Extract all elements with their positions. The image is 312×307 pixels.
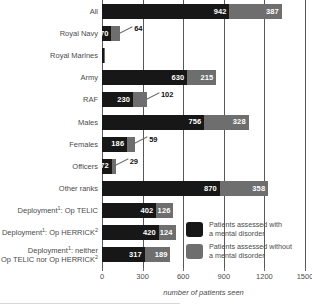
bar-value-with-disorder-females: 186 bbox=[111, 140, 127, 148]
bar-segment-with-disorder-army: 630 bbox=[102, 70, 187, 85]
bar-row-females: 186 bbox=[102, 137, 135, 152]
footer-divider bbox=[0, 303, 180, 304]
bar-segment-without-disorder-deployment-op-telic: 126 bbox=[156, 203, 173, 218]
bar-row-other-ranks: 870358 bbox=[102, 181, 268, 196]
bar-segment-without-disorder-deployment-op-herrick: 124 bbox=[159, 225, 176, 240]
bar-segment-without-disorder-other-ranks: 358 bbox=[220, 181, 268, 196]
bar-value-with-disorder-deployment-op-herrick: 420 bbox=[143, 229, 159, 237]
bar-value-with-disorder-army: 630 bbox=[171, 74, 187, 82]
bar-segment-with-disorder-deployment-op-herrick: 420 bbox=[102, 225, 159, 240]
category-label-officers: Officers bbox=[0, 162, 98, 171]
bar-value-without-disorder-other-ranks: 358 bbox=[252, 185, 268, 193]
bar-segment-without-disorder-royal-marines bbox=[104, 48, 105, 63]
x-tick-1500 bbox=[305, 268, 306, 271]
bar-segment-without-disorder-army: 215 bbox=[187, 70, 216, 85]
x-tick-label-600: 600 bbox=[177, 272, 190, 281]
bar-value-without-disorder-army: 215 bbox=[201, 74, 217, 82]
bar-value-with-disorder-deployment-neither: 317 bbox=[129, 251, 145, 259]
bar-value-without-disorder-officers: 29 bbox=[130, 158, 138, 166]
bar-segment-with-disorder-royal-navy: 70 bbox=[102, 26, 111, 41]
bar-segment-with-disorder-deployment-neither: 317 bbox=[102, 247, 145, 262]
category-label-royal-navy: Royal Navy bbox=[0, 29, 98, 38]
bar-segment-with-disorder-officers: 72 bbox=[102, 159, 112, 174]
bar-segment-with-disorder-females: 186 bbox=[102, 137, 127, 152]
bar-value-with-disorder-other-ranks: 870 bbox=[204, 185, 220, 193]
x-tick-label-900: 900 bbox=[218, 272, 231, 281]
legend-label-with-disorder: Patients assessed witha mental disorder bbox=[209, 220, 282, 238]
x-tick-label-0: 0 bbox=[100, 272, 104, 281]
bar-row-all: 942387 bbox=[102, 4, 282, 19]
x-tick-600 bbox=[183, 268, 184, 271]
bar-value-with-disorder-officers: 72 bbox=[100, 162, 112, 170]
category-axis-labels: AllRoyal NavyRoyal MarinesArmyRAFMalesFe… bbox=[0, 0, 98, 268]
category-label-all: All bbox=[0, 7, 98, 16]
category-label-royal-marines: Royal Marines bbox=[0, 51, 98, 60]
bar-row-deployment-op-telic: 402126 bbox=[102, 203, 173, 218]
bar-value-with-disorder-all: 942 bbox=[214, 8, 230, 16]
bar-row-deployment-neither: 317189 bbox=[102, 247, 170, 262]
bar-value-without-disorder-raf: 102 bbox=[161, 91, 174, 99]
legend-label-without-disorder: Patients assessed withouta mental disord… bbox=[209, 242, 292, 260]
bar-segment-with-disorder-deployment-op-telic: 402 bbox=[102, 203, 156, 218]
category-label-deployment-neither: Deployment1: neitherOp TELIC nor Op HERR… bbox=[0, 246, 98, 264]
x-tick-1200 bbox=[264, 268, 265, 271]
bar-segment-without-disorder-deployment-neither: 189 bbox=[145, 247, 171, 262]
category-label-females: Females bbox=[0, 140, 98, 149]
bar-value-without-disorder-royal-navy: 64 bbox=[134, 25, 142, 33]
bar-value-with-disorder-royal-navy: 70 bbox=[100, 30, 112, 38]
x-tick-0 bbox=[102, 268, 103, 271]
legend-item-with-disorder: Patients assessed witha mental disorder bbox=[186, 220, 308, 238]
bar-segment-without-disorder-all: 387 bbox=[229, 4, 281, 19]
bar-segment-with-disorder-raf: 230 bbox=[102, 92, 133, 107]
bar-row-raf: 230 bbox=[102, 92, 147, 107]
legend-item-without-disorder: Patients assessed withouta mental disord… bbox=[186, 242, 308, 260]
bar-segment-with-disorder-males: 756 bbox=[102, 115, 204, 130]
x-tick-label-1500: 1500 bbox=[297, 272, 312, 281]
bar-value-without-disorder-deployment-neither: 189 bbox=[155, 251, 171, 259]
category-label-males: Males bbox=[0, 118, 98, 127]
bar-row-royal-marines bbox=[102, 48, 104, 63]
bar-row-army: 630215 bbox=[102, 70, 216, 85]
stacked-bar-chart: AllRoyal NavyRoyal MarinesArmyRAFMalesFe… bbox=[0, 0, 312, 307]
x-tick-label-300: 300 bbox=[136, 272, 149, 281]
category-label-raf: RAF bbox=[0, 95, 98, 104]
legend: Patients assessed witha mental disorderP… bbox=[186, 220, 308, 264]
x-axis-title: number of patients seen bbox=[102, 288, 305, 297]
bar-value-without-disorder-deployment-op-herrick: 124 bbox=[160, 229, 176, 237]
bar-value-without-disorder-all: 387 bbox=[266, 8, 282, 16]
category-label-other-ranks: Other ranks bbox=[0, 184, 98, 193]
x-tick-label-1200: 1200 bbox=[256, 272, 273, 281]
bar-segment-without-disorder-males: 328 bbox=[204, 115, 248, 130]
category-label-deployment-op-herrick: Deployment1: Op HERRICK2 bbox=[0, 228, 98, 237]
bar-value-with-disorder-deployment-op-telic: 402 bbox=[141, 207, 157, 215]
category-label-deployment-op-telic: Deployment1: Op TELIC bbox=[0, 206, 98, 215]
bar-row-males: 756328 bbox=[102, 115, 249, 130]
bar-value-with-disorder-raf: 230 bbox=[117, 96, 133, 104]
bar-value-without-disorder-females: 59 bbox=[149, 136, 157, 144]
x-tick-900 bbox=[224, 268, 225, 271]
bar-value-without-disorder-males: 328 bbox=[233, 118, 249, 126]
x-tick-300 bbox=[143, 268, 144, 271]
bar-segment-with-disorder-all: 942 bbox=[102, 4, 229, 19]
bar-row-deployment-op-herrick: 420124 bbox=[102, 225, 176, 240]
x-axis: 030060090012001500 bbox=[102, 268, 305, 284]
bar-value-with-disorder-males: 756 bbox=[188, 118, 204, 126]
legend-swatch-without-disorder bbox=[186, 244, 203, 259]
bar-value-without-disorder-deployment-op-telic: 126 bbox=[158, 207, 174, 215]
category-label-army: Army bbox=[0, 73, 98, 82]
legend-swatch-with-disorder bbox=[186, 222, 203, 237]
bar-segment-with-disorder-other-ranks: 870 bbox=[102, 181, 220, 196]
